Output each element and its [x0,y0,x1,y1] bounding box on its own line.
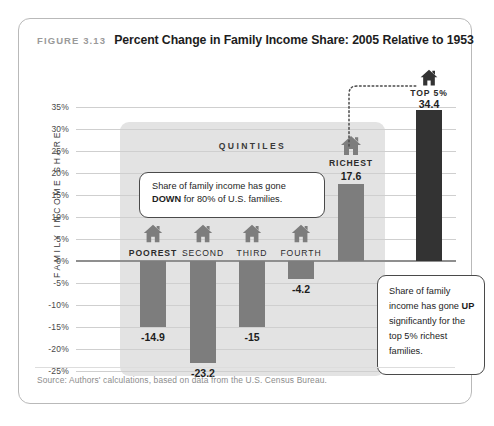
value-label-third: -15 [212,331,292,343]
y-tick-label: -10% [29,300,69,310]
quintiles-label: QUINTILES [120,141,385,151]
zero-line [76,260,456,262]
source-divider [35,367,455,368]
category-label-top-5: TOP 5% [389,88,469,98]
bar-richest [338,184,364,261]
bar-fourth [288,261,314,279]
gridline [76,151,456,152]
callout-up: Share of family income has gone UP signi… [377,275,485,375]
y-tick-label: 10% [29,212,69,222]
callout-down-emphasis: DOWN [152,194,181,204]
value-label-top-5: 34.4 [389,98,469,110]
y-tick-label: -5% [29,278,69,288]
y-tick-label: 35% [29,102,69,112]
figure-card: FIGURE 3.13 Percent Change in Family Inc… [18,18,472,404]
house-icon [241,223,263,249]
y-tick-label: 15% [29,190,69,200]
callout-down-text-before: Share of family income has gone [152,181,286,191]
house-icon [142,223,164,249]
gridline [76,129,456,130]
y-tick-label: -20% [29,344,69,354]
category-label-fourth: FOURTH [261,248,341,258]
bar-second [190,261,216,363]
callout-up-text-after: significantly for the top 5% richest fam… [389,316,465,356]
callout-down-text-after: for 80% of U.S. families. [181,194,282,204]
source-note: Source: Authors' calculations, based on … [37,375,327,385]
value-label-poorest: -14.9 [113,331,193,343]
category-label-richest: RICHEST [311,158,391,168]
value-label-fourth: -4.2 [261,283,341,295]
callout-up-emphasis: UP [462,301,475,311]
bar-poorest [140,261,166,327]
bar-top-5 [416,110,442,261]
y-tick-label: 30% [29,124,69,134]
house-icon [192,223,214,249]
callout-up-text-before: Share of family income has gone [389,286,462,311]
y-tick-label: 5% [29,234,69,244]
y-tick-label: -15% [29,322,69,332]
gridline [76,239,456,240]
y-tick-label: 0% [29,256,69,266]
y-tick-label: 25% [29,146,69,156]
house-icon [290,223,312,249]
y-tick-label: 20% [29,168,69,178]
chart-plot-area: FAMILY INCOME SHARE 35%30%25%20%15%10%5%… [19,19,473,405]
callout-down: Share of family income has gone DOWN for… [139,172,325,218]
